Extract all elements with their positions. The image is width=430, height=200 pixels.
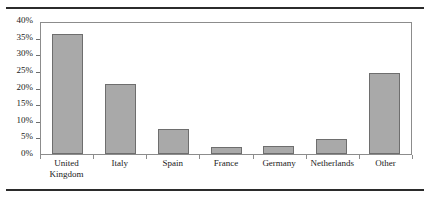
bar	[158, 129, 189, 154]
bar-slot	[41, 23, 94, 154]
y-axis-tick-label: 30%	[17, 48, 34, 59]
x-axis-category-label-line: Spain	[146, 158, 199, 169]
bar	[369, 73, 400, 154]
bar-slot	[305, 23, 358, 154]
x-axis-category-label: Other	[359, 158, 412, 180]
bar-slot	[200, 23, 253, 154]
x-axis-category-label-line: Italy	[93, 158, 146, 169]
x-axis-category-label: Spain	[146, 158, 199, 180]
x-axis-category-label-line: Kingdom	[40, 169, 93, 180]
y-axis-tick-label: 20%	[17, 82, 34, 93]
y-axis-tick-label: 35%	[17, 32, 34, 43]
x-axis-category-label-line: Germany	[253, 158, 306, 169]
top-horizontal-rule	[6, 7, 424, 9]
x-axis-category-label: Netherlands	[306, 158, 359, 180]
y-axis: 0%5%10%15%20%25%30%35%40%	[0, 22, 40, 155]
bar	[263, 146, 294, 154]
x-axis-category-label-line: Other	[359, 158, 412, 169]
y-axis-tick-label: 40%	[17, 15, 34, 26]
bar-series	[41, 23, 411, 154]
plot-area	[40, 22, 412, 155]
x-axis-category-label: Italy	[93, 158, 146, 180]
x-axis-tick-mark	[412, 155, 413, 159]
bar	[316, 139, 347, 154]
bar-slot	[358, 23, 411, 154]
bar	[105, 84, 136, 154]
bar	[52, 34, 83, 154]
y-axis-tick-label: 15%	[17, 98, 34, 109]
x-axis-category-label-line: France	[199, 158, 252, 169]
y-axis-tick-label: 5%	[21, 131, 33, 142]
bar-slot	[147, 23, 200, 154]
bar-slot	[252, 23, 305, 154]
x-axis-category-label: France	[199, 158, 252, 180]
bar-slot	[94, 23, 147, 154]
y-axis-tick-label: 10%	[17, 115, 34, 126]
x-axis-category-label: Germany	[253, 158, 306, 180]
bottom-horizontal-rule	[6, 189, 424, 191]
x-axis-labels: UnitedKingdomItalySpainFranceGermanyNeth…	[40, 158, 412, 180]
y-axis-tick-label: 25%	[17, 65, 34, 76]
y-axis-tick-label: 0%	[21, 148, 33, 159]
bar	[211, 147, 242, 154]
bar-chart-figure: 0%5%10%15%20%25%30%35%40% UnitedKingdomI…	[0, 0, 430, 200]
x-axis-category-label: UnitedKingdom	[40, 158, 93, 180]
x-axis-category-label-line: United	[40, 158, 93, 169]
x-axis-category-label-line: Netherlands	[306, 158, 359, 169]
